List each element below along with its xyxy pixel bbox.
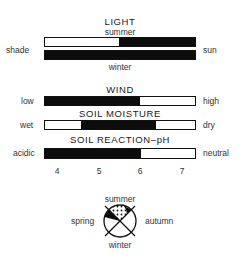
light-title: LIGHT (94, 16, 146, 27)
soil-moisture-bar (44, 120, 196, 130)
wind-low-label: low (21, 96, 34, 106)
light-sun-label: sun (203, 45, 217, 55)
soil-moisture-bar-fill (81, 121, 156, 129)
soil-moisture-wet-label: wet (20, 120, 33, 130)
light-shade-label: shade (6, 45, 29, 55)
light-summer-label: summer (94, 27, 146, 37)
season-winter-label: winter (95, 240, 145, 250)
light-summer-bar (44, 37, 196, 47)
wind-bar-fill (45, 97, 140, 105)
wind-bar (44, 96, 196, 106)
season-dial-icon (100, 201, 140, 241)
season-autumn-label: autumn (145, 216, 173, 226)
light-winter-bar (44, 50, 196, 60)
soil-ph-bar (44, 148, 196, 159)
season-spring-label: spring (71, 216, 94, 226)
light-summer-bar-fill (119, 38, 196, 46)
soil-ph-bar-fill (45, 149, 141, 158)
ph-tick-4: 4 (51, 166, 63, 176)
soil-ph-neutral-label: neutral (203, 148, 229, 158)
ph-tick-7: 7 (176, 166, 188, 176)
ph-tick-5: 5 (93, 166, 105, 176)
soil-ph-title: SOIL REACTION–pH (54, 134, 186, 145)
wind-title: WIND (84, 84, 156, 95)
light-winter-bar-fill (45, 51, 195, 59)
ph-tick-6: 6 (134, 166, 146, 176)
wind-high-label: high (203, 96, 219, 106)
soil-moisture-dry-label: dry (203, 120, 215, 130)
soil-moisture-title: SOIL MOISTURE (64, 108, 176, 119)
light-winter-label: winter (94, 62, 146, 72)
soil-ph-acidic-label: acidic (13, 148, 35, 158)
